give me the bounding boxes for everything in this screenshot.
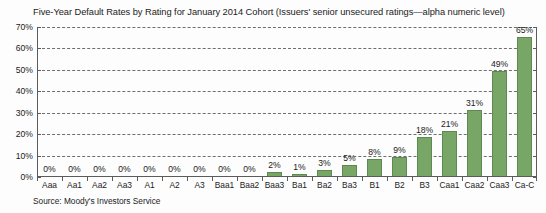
y-axis-tick-label: 70% [3,22,33,32]
x-axis-tick-label: B2 [394,180,404,190]
y-axis-tick [533,113,537,114]
y-axis-tick [533,48,537,49]
x-axis-tick-label: Aa2 [92,180,107,190]
x-axis-tick-label: B3 [419,180,429,190]
x-axis-tick-label: Ba1 [292,180,307,190]
x-axis-tick-label: Ca-C [515,180,535,190]
x-axis-tick-label: A2 [169,180,179,190]
y-axis-tick-label: 0% [3,172,33,182]
plot-frame [37,27,537,177]
y-axis-tick [37,156,41,157]
y-axis-tick [533,27,537,28]
y-axis-tick [533,134,537,135]
y-axis-tick [37,27,41,28]
x-axis-tick-label: A3 [194,180,204,190]
x-axis-tick-label: Baa2 [240,180,260,190]
y-axis-tick [37,48,41,49]
chart-figure: Five-Year Default Rates by Rating for Ja… [0,0,546,213]
x-axis-tick-label: A1 [144,180,154,190]
y-axis-tick-label: 10% [3,151,33,161]
y-axis-tick [533,70,537,71]
x-axis-tick-label: Caa1 [439,180,459,190]
x-axis-tick-label: Aa1 [67,180,82,190]
x-axis-tick-label: Caa2 [464,180,484,190]
x-axis-tick-label: Aaa [42,180,57,190]
y-axis-tick [533,156,537,157]
y-axis-tick-label: 40% [3,86,33,96]
y-axis-tick-label: 60% [3,43,33,53]
y-axis-tick-label: 50% [3,65,33,75]
y-axis-tick [37,134,41,135]
x-axis-tick-label: Baa3 [265,180,285,190]
y-axis-tick-label: 30% [3,108,33,118]
x-axis-tick-label: Ba3 [342,180,357,190]
x-axis-tick-label: Baa1 [215,180,235,190]
x-axis-tick-label: B1 [369,180,379,190]
source-note: Source: Moody's Investors Service [33,196,160,206]
y-axis-tick [37,91,41,92]
x-axis-tick-label: Ba2 [317,180,332,190]
x-axis-tick-label: Aa3 [117,180,132,190]
y-axis-tick [37,113,41,114]
chart-title: Five-Year Default Rates by Rating for Ja… [33,7,538,18]
y-axis-tick-label: 20% [3,129,33,139]
y-axis-tick [533,91,537,92]
plot-area: 0%0%0%0%0%0%0%0%0%2%1%3%5%8%9%18%21%31%4… [37,27,537,177]
x-axis-labels: AaaAa1Aa2Aa3A1A2A3Baa1Baa2Baa3Ba1Ba2Ba3B… [37,180,537,193]
x-axis-tick-label: Caa3 [489,180,509,190]
y-axis-tick [37,70,41,71]
